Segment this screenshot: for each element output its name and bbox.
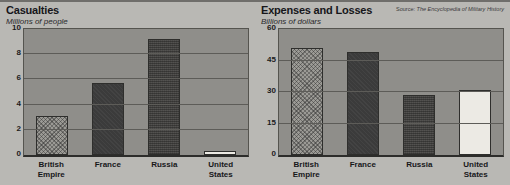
x-tick-label: Russia: [391, 160, 448, 182]
grid-line: [24, 78, 248, 79]
bar: [36, 116, 67, 155]
source-label: Source:: [396, 6, 415, 12]
dual-bar-chart-figure: Casualties Millions of people 0246810 Br…: [0, 0, 510, 185]
plot-canvas-casualties: [23, 28, 249, 157]
x-tick-label: Russia: [136, 160, 193, 182]
x-tick-label: British Empire: [278, 160, 335, 182]
bar-slot: [136, 29, 192, 155]
x-tick-labels-casualties: British EmpireFranceRussiaUnited States: [23, 160, 249, 182]
bar-slot: [24, 29, 80, 155]
bar-slot: [80, 29, 136, 155]
bar-slot: [391, 29, 447, 155]
y-tick-label: 0: [272, 150, 276, 158]
x-tick-labels-expenses: British EmpireFranceRussiaUnited States: [278, 160, 504, 182]
y-tick-label: 60: [267, 24, 276, 32]
y-tick-label: 45: [267, 56, 276, 64]
y-tick-label: 6: [17, 74, 21, 82]
y-tick-label: 15: [267, 119, 276, 127]
x-tick-label: United States: [193, 160, 250, 182]
chart-panel-expenses: Expenses and Losses Billions of dollars …: [261, 4, 504, 182]
x-axis-casualties: British EmpireFranceRussiaUnited States: [6, 160, 249, 182]
chart-header-expenses: Expenses and Losses Billions of dollars …: [261, 4, 504, 28]
chart-panel-casualties: Casualties Millions of people 0246810 Br…: [6, 4, 249, 182]
y-axis-casualties: 0246810: [6, 28, 23, 158]
y-tick-label: 4: [17, 100, 21, 108]
chart-subtitle-expenses: Billions of dollars: [261, 17, 504, 27]
chart-subtitle: Millions of people: [6, 17, 249, 27]
grid-line: [279, 123, 503, 124]
x-tick-label: British Empire: [23, 160, 80, 182]
plot-canvas-expenses: [278, 28, 504, 157]
x-tick-label: France: [335, 160, 392, 182]
y-axis-expenses: 015304560: [261, 28, 278, 158]
bar-group-expenses: [279, 29, 503, 155]
bar: [148, 39, 179, 155]
source-attribution: Source: The Encyclopedia of Military His…: [396, 6, 504, 12]
x-axis-spacer-expenses: [261, 160, 278, 182]
bar-slot: [192, 29, 248, 155]
x-axis-spacer: [6, 160, 23, 182]
grid-line: [279, 91, 503, 92]
x-tick-label: France: [80, 160, 137, 182]
bar: [291, 48, 322, 155]
bar-slot: [335, 29, 391, 155]
y-tick-label: 8: [17, 49, 21, 57]
page-title: Casualties: [6, 4, 249, 16]
y-tick-label: 0: [17, 150, 21, 158]
x-tick-label: United States: [448, 160, 505, 182]
grid-line: [24, 53, 248, 54]
bar-group-casualties: [24, 29, 248, 155]
x-axis-expenses: British EmpireFranceRussiaUnited States: [261, 160, 504, 182]
plot-area-casualties: 0246810: [6, 28, 249, 158]
bar: [403, 95, 434, 155]
y-tick-label: 2: [17, 125, 21, 133]
y-tick-label: 30: [267, 87, 276, 95]
grid-line: [24, 129, 248, 130]
bar: [92, 83, 123, 155]
bar: [204, 151, 235, 155]
chart-header-casualties: Casualties Millions of people: [6, 4, 249, 28]
bar-slot: [447, 29, 503, 155]
source-title: The Encyclopedia of Military History: [417, 6, 504, 12]
plot-area-expenses: 015304560: [261, 28, 504, 158]
y-tick-label: 10: [12, 24, 21, 32]
grid-line: [24, 104, 248, 105]
grid-line: [279, 60, 503, 61]
bar: [347, 52, 378, 155]
bar-slot: [279, 29, 335, 155]
